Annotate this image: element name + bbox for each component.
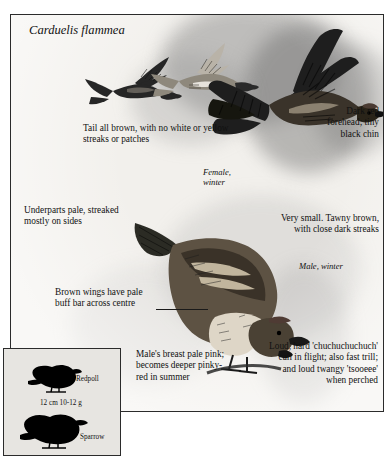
size-box-compare-label: Sparrow xyxy=(80,433,104,441)
leader-line-wingbar xyxy=(156,309,208,310)
figure-label-female: Female, winter xyxy=(203,167,231,187)
annotation-voice: Loud, hard 'chuchuchuchuch' call in flig… xyxy=(264,341,378,387)
figure-label-male: Male, winter xyxy=(299,261,343,271)
annotation-underparts: Underparts pale, streaked mostly on side… xyxy=(24,205,128,228)
figure-label-female-line2: winter xyxy=(203,177,231,187)
figure-label-female-line1: Female, xyxy=(203,167,231,177)
field-guide-plate: Carduelis flammea Tail all brown, with n… xyxy=(0,0,392,458)
annotation-size-colour: Very small. Tawny brown, with close dark… xyxy=(273,213,379,236)
sparrow-silhouette xyxy=(18,411,88,451)
scientific-name: Carduelis flammea xyxy=(29,23,125,38)
size-box-species-label: Redpoll xyxy=(76,375,99,383)
annotation-wingbar: Brown wings have pale buff bar across ce… xyxy=(55,287,155,310)
redpoll-silhouette xyxy=(26,361,82,395)
size-box-measurements: 12 cm 10-12 g xyxy=(40,399,82,407)
size-comparison-box: Redpoll 12 cm 10-12 g Sparrow xyxy=(3,348,121,456)
annotation-forehead: Dark red forehead; tiny black chin xyxy=(311,106,379,140)
flying-bird-large-right xyxy=(207,29,384,169)
annotation-breast: Male's breast pale pink; becomes deeper … xyxy=(136,349,234,383)
annotation-tail: Tail all brown, with no white or yellow … xyxy=(83,123,243,146)
